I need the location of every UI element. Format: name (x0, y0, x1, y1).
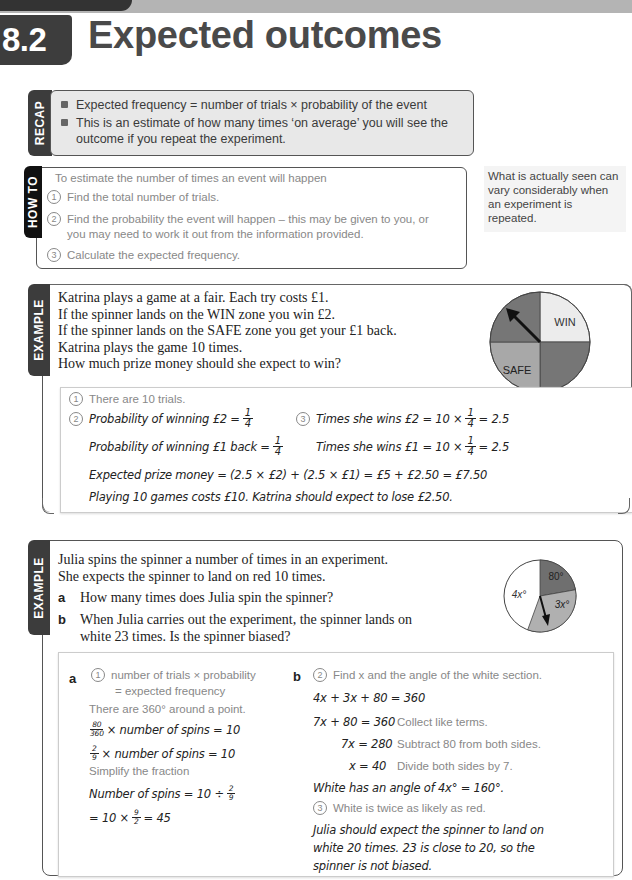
ex2b-conclusion-3: spinner is not biased. (313, 859, 432, 873)
example-2-part-a: a How many times does Julia spin the spi… (58, 590, 65, 607)
win-safe-spinner: WIN SAFE (488, 290, 592, 394)
step-number-circle: 1 (91, 668, 105, 682)
howto-step-2: 2 Find the probability the event will ha… (47, 212, 429, 242)
recap-tab: RECAP (28, 90, 52, 156)
svg-text:4x°: 4x° (512, 589, 527, 600)
howto-intro: To estimate the number of times an event… (55, 172, 327, 184)
recap-bullet: Expected frequency = number of trials × … (59, 97, 448, 113)
fraction: 80360 (90, 721, 104, 738)
ex2a-step-1: 1 number of trials × probability (91, 668, 256, 682)
ex1-step-2a: 2 Probability of winning £2 = 14 (69, 408, 256, 429)
recap-bullet: This is an estimate of how many times ‘o… (59, 115, 448, 147)
example-1-tab: EXAMPLE (28, 284, 50, 376)
ex2b-eq-1: 4x + 3x + 80 = 360 (313, 691, 425, 705)
solution-b-label: b (293, 669, 301, 684)
ex2a-eq-2: 29 × number of spins = 10 (87, 745, 235, 762)
svg-text:3x°: 3x° (555, 599, 570, 610)
ex1-step-2b: Probability of winning £1 back = 14 (89, 436, 286, 457)
example-2-solution: a 1 number of trials × probability = exp… (58, 652, 614, 877)
ex2a-step-1-line2: = expected frequency (115, 685, 225, 697)
step-number-circle: 2 (69, 412, 83, 426)
ex2a-eq-4: = 10 × 92 = 45 (89, 809, 171, 826)
fraction: 14 (273, 436, 283, 457)
fraction: 92 (132, 809, 141, 826)
ex2a-note-2: Simplify the fraction (89, 765, 189, 777)
step-number-circle: 1 (47, 190, 61, 204)
angle-spinner: 80° 4x° 3x° (502, 558, 578, 634)
step-number-circle: 3 (296, 412, 310, 426)
ex1-step-1: 1 There are 10 trials. (69, 392, 186, 406)
step-number-circle: 2 (313, 668, 327, 682)
ex2b-conclusion-2: white 20 times. 23 is close to 20, so th… (313, 841, 535, 855)
step-number-circle: 2 (47, 212, 61, 226)
step-number-circle: 3 (313, 801, 327, 815)
side-note: What is actually seen can vary considera… (484, 166, 626, 232)
ex2a-eq-1: 80360 × number of spins = 10 (87, 721, 240, 738)
ex2b-eq-3: 7x = 280 Subtract 80 from both sides. (341, 737, 541, 751)
ex2a-note-1: There are 360° around a point. (89, 703, 246, 715)
howto-step-3: 3 Calculate the expected frequency. (47, 248, 240, 263)
ex2a-eq-3: Number of spins = 10 ÷ 29 (89, 785, 238, 802)
step-number-circle: 1 (69, 392, 83, 406)
fraction: 29 (90, 745, 99, 762)
example-1-question: Katrina plays a game at a fair. Each try… (58, 290, 397, 373)
howto-box: To estimate the number of times an event… (36, 167, 467, 269)
page-title: Expected outcomes (88, 14, 442, 57)
fraction: 14 (465, 436, 475, 457)
top-banner-tab (0, 0, 132, 11)
howto-step-1: 1 Find the total number of trials. (47, 190, 219, 205)
svg-text:WIN: WIN (554, 316, 575, 328)
ex1-expected-money: Expected prize money = (2.5 × £2) + (2.5… (89, 468, 487, 482)
ex2b-step-3: 3 White is twice as likely as red. (313, 801, 486, 815)
svg-text:80°: 80° (548, 571, 563, 582)
ex2b-white-angle: White has an angle of 4x° = 160°. (313, 781, 504, 795)
recap-list: Expected frequency = number of trials × … (59, 97, 448, 149)
recap-box: Expected frequency = number of trials × … (50, 90, 474, 156)
fraction: 14 (243, 408, 253, 429)
fraction: 14 (465, 408, 475, 429)
ex1-conclusion: Playing 10 games costs £10. Katrina shou… (89, 490, 453, 504)
ex1-step-3b: Times she wins £1 = 10 × 14 = 2.5 (316, 436, 509, 457)
example-2-part-b: b When Julia carries out the experiment,… (58, 612, 66, 629)
howto-tab: HOW TO (24, 166, 42, 238)
ex2b-conclusion-1: Julia should expect the spinner to land … (313, 823, 544, 837)
example-2-question: Julia spins the spinner a number of time… (58, 552, 388, 585)
ex2b-step-2: 2 Find x and the angle of the white sect… (313, 668, 542, 682)
example-2-tab: EXAMPLE (28, 540, 50, 635)
fraction: 29 (227, 785, 236, 802)
section-number: 8.2 (0, 15, 72, 65)
ex2b-eq-4: x = 40 Divide both sides by 7. (349, 759, 513, 773)
ex1-step-3a: 3 Times she wins £2 = 10 × 14 = 2.5 (296, 408, 509, 429)
example-1-corner-left (42, 498, 54, 514)
example-1-solution: 1 There are 10 trials. 2 Probability of … (60, 387, 632, 513)
step-number-circle: 3 (47, 248, 61, 262)
solution-a-label: a (69, 671, 76, 686)
ex2b-eq-2: 7x + 80 = 360 Collect like terms. (313, 715, 488, 729)
svg-text:SAFE: SAFE (503, 364, 532, 376)
